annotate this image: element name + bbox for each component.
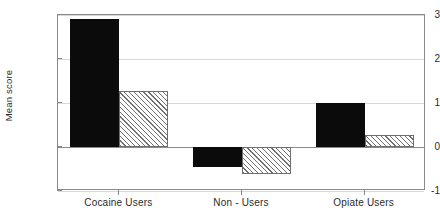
bar-chart: Mean score 3210-1 Cocaine UsersNon - Use… <box>0 0 440 223</box>
gridline-3 <box>58 15 424 16</box>
y-axis-title-text: Mean score <box>4 69 15 121</box>
plot-area <box>57 14 425 190</box>
bar <box>316 103 365 147</box>
bar <box>193 147 242 167</box>
bar <box>365 135 414 147</box>
x-axis-tick-mark <box>364 190 365 195</box>
x-axis-tick-mark <box>241 190 242 195</box>
x-axis-category-label: Cocaine Users <box>84 197 152 208</box>
bar <box>242 147 291 174</box>
x-axis-category-label: Non - Users <box>213 197 269 208</box>
x-axis-category-label: Opiate Users <box>333 197 394 208</box>
bar <box>70 19 119 147</box>
x-axis-tick-mark <box>118 190 119 195</box>
bar <box>119 91 168 147</box>
y-axis-title: Mean score <box>0 0 18 190</box>
